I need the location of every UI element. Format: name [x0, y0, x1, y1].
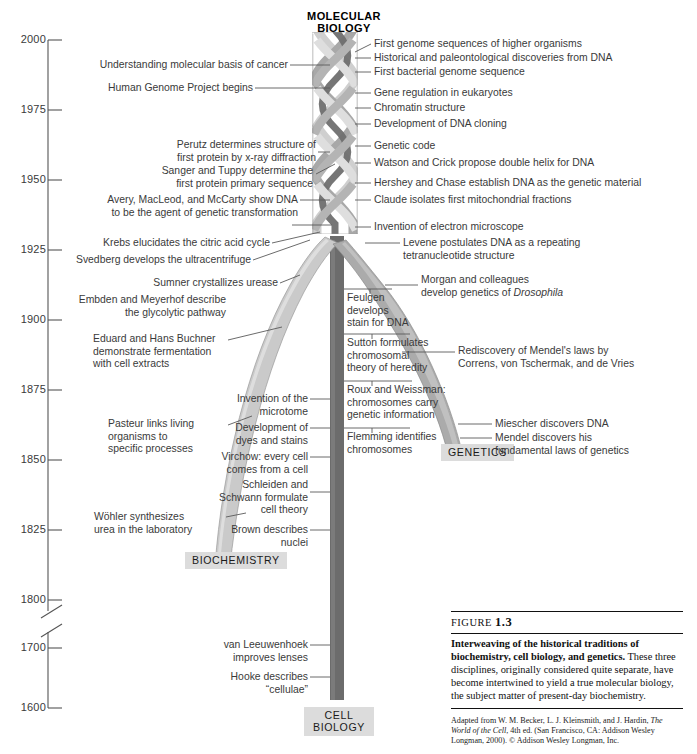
- discipline-label-biochemistry: BIOCHEMISTRY: [185, 552, 287, 569]
- time-axis: [41, 40, 62, 708]
- figure-caption: FIGURE 1.3 Interweaving of the historica…: [451, 611, 683, 746]
- event-left-svedberg: Svedberg develops the ultracentrifuge: [60, 254, 251, 267]
- event-right-paleontological-dna: Historical and paleontological discoveri…: [374, 52, 674, 65]
- event-left-embden-meyerhof: Embden and Meyerhof describe the glycoly…: [60, 294, 226, 319]
- axis-tick-1600: 1600: [0, 701, 46, 713]
- molecular-biology-braid: [312, 30, 358, 240]
- event-cell-microtome: Invention of the microtome: [196, 393, 308, 418]
- event-right-mendel-rediscovery: Rediscovery of Mendel's laws by Correns,…: [458, 345, 693, 370]
- event-right-dna-cloning: Development of DNA cloning: [374, 118, 674, 131]
- axis-tick-1950: 1950: [0, 173, 46, 185]
- event-left-avery-macleod-mccarty: Avery, MacLeod, and McCarty show DNA to …: [62, 194, 298, 219]
- event-left-buchner: Eduard and Hans Buchner demonstrate ferm…: [93, 333, 243, 371]
- caption-mid-rule: [451, 633, 683, 634]
- event-right-claude-mitochondrial: Claude isolates first mitochondrial frac…: [374, 194, 674, 207]
- event-left-cancer: Understanding molecular basis of cancer: [60, 59, 288, 72]
- event-right-morgan-drosophila: Morgan and colleagues develop genetics o…: [421, 274, 661, 299]
- event-right-hershey-chase: Hershey and Chase establish DNA as the g…: [374, 177, 684, 190]
- event-cell-roux-weissman: Roux and Weissman: chromosomes carry gen…: [347, 384, 465, 422]
- event-right-genetic-code: Genetic code: [374, 140, 674, 153]
- discipline-label-cell-biology: CELL BIOLOGY: [304, 707, 374, 736]
- axis-tick-1925: 1925: [0, 243, 46, 255]
- event-cell-feulgen: Feulgen develops stain for DNA: [347, 292, 447, 330]
- event-right-levene: Levene postulates DNA as a repeating tet…: [403, 237, 643, 262]
- discipline-label-molecular-biology: MOLECULAR BIOLOGY: [292, 8, 396, 37]
- axis-tick-1825: 1825: [0, 523, 46, 535]
- event-right-electron-microscope: Invention of electron microscope: [374, 221, 674, 234]
- event-left-sumner: Sumner crystallizes urease: [110, 277, 278, 290]
- caption-figure-value: 1.3: [495, 615, 512, 629]
- event-right-gene-regulation-eukaryotes: Gene regulation in eukaryotes: [374, 87, 674, 100]
- caption-source: Adapted from W. M. Becker, L. J. Kleinsm…: [451, 716, 683, 746]
- axis-tick-1850: 1850: [0, 453, 46, 465]
- event-cell-hooke: Hooke describes “cellulae”: [196, 671, 308, 696]
- caption-figure-number: FIGURE 1.3: [451, 612, 683, 632]
- event-cell-van-leeuwenhoek: van Leeuwenhoek improves lenses: [190, 639, 308, 664]
- event-cell-brown-nuclei: Brown describes nuclei: [196, 524, 308, 549]
- axis-tick-1975: 1975: [0, 103, 46, 115]
- event-cell-dyes-stains: Development of dyes and stains: [196, 422, 308, 447]
- event-right-miescher: Miescher discovers DNA: [495, 418, 695, 431]
- caption-figure-word: FIGURE: [451, 617, 492, 628]
- event-cell-virchow: Virchow: every cell comes from a cell: [190, 451, 308, 476]
- event-cell-sutton: Sutton formulates chromosomal theory of …: [347, 337, 457, 375]
- axis-tick-2000: 2000: [0, 33, 46, 45]
- event-right-watson-crick: Watson and Crick propose double helix fo…: [374, 157, 674, 170]
- event-left-perutz: Perutz determines structure of first pro…: [100, 139, 316, 164]
- event-right-chromatin-structure: Chromatin structure: [374, 102, 674, 115]
- event-right-mendel-laws: Mendel discovers his fundamental laws of…: [495, 432, 695, 457]
- source-prefix: Adapted from W. M. Becker, L. J. Kleinsm…: [451, 716, 651, 725]
- event-right-first-bacterial-genome: First bacterial genome sequence: [374, 66, 674, 79]
- axis-tick-1800: 1800: [0, 593, 46, 605]
- leader-lines-cell-right: [310, 399, 330, 677]
- event-left-sanger-tuppy: Sanger and Tuppy determine the first pro…: [100, 165, 313, 190]
- morgan-italic-species: Drosophila: [513, 287, 563, 298]
- strand-cell-biology-highlight: [331, 240, 335, 700]
- caption-text: Interweaving of the historical tradition…: [451, 638, 683, 703]
- event-left-human-genome-project: Human Genome Project begins: [60, 82, 253, 95]
- event-left-krebs: Krebs elucidates the citric acid cycle: [80, 237, 270, 250]
- event-cell-schleiden-schwann: Schleiden and Schwann formulate cell the…: [196, 479, 308, 517]
- figure-1-3: 2000 1975 1950 1925 1900 1875 1850 1825 …: [0, 0, 697, 754]
- axis-tick-1875: 1875: [0, 383, 46, 395]
- axis-tick-1900: 1900: [0, 313, 46, 325]
- axis-tick-1700: 1700: [0, 641, 46, 653]
- caption-source-rule: [451, 708, 683, 709]
- event-cell-flemming: Flemming identifies chromosomes: [347, 431, 459, 456]
- event-right-first-genome-higher-organisms: First genome sequences of higher organis…: [374, 38, 674, 51]
- caption-title: Interweaving of the historical tradition…: [451, 638, 639, 662]
